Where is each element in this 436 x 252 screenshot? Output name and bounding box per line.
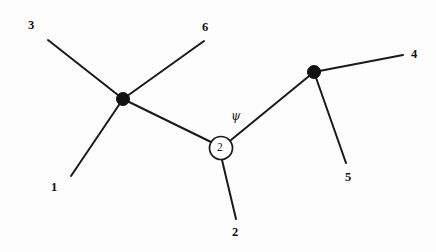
edge-leg-6	[123, 41, 204, 99]
edge-leg-1	[71, 99, 123, 176]
graph-diagram-canvas: 2 ψ 3 6 4 1 5 2	[0, 0, 436, 252]
edge-leg-3	[48, 40, 123, 99]
edge-internal-left	[123, 99, 211, 142]
leg-label-2: 2	[232, 226, 238, 239]
edge-leg-2	[222, 160, 236, 219]
leg-label-6: 6	[202, 21, 208, 34]
leg-label-4: 4	[411, 48, 417, 61]
vertex-right-filled	[308, 66, 321, 79]
leg-label-3: 3	[28, 19, 34, 32]
vertex-center-label: 2	[217, 142, 223, 154]
graph-svg	[0, 0, 436, 252]
edge-leg-4	[314, 55, 403, 72]
edge-internal-right	[231, 72, 314, 140]
edge-leg-5	[314, 72, 346, 163]
leg-label-1: 1	[51, 181, 57, 194]
leg-label-5: 5	[345, 171, 351, 184]
vertex-left-filled	[117, 93, 130, 106]
psi-label: ψ	[231, 110, 240, 122]
